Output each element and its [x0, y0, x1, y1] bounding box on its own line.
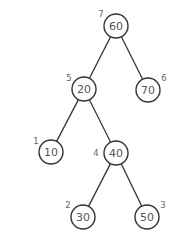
tree-node-70: 706: [136, 73, 167, 102]
node-order-label: 3: [160, 200, 165, 210]
edge-n60-n20: [89, 37, 110, 79]
node-order-label: 6: [161, 73, 166, 83]
node-value: 30: [76, 211, 90, 224]
edge-n60-n70: [121, 37, 142, 80]
node-value: 20: [77, 83, 91, 96]
tree-node-20: 205: [66, 73, 96, 101]
binary-tree-diagram: 607205706101404302503: [0, 0, 185, 235]
node-order-label: 1: [33, 136, 38, 146]
node-value: 40: [109, 147, 123, 160]
node-value: 60: [109, 20, 123, 33]
node-value: 70: [141, 84, 155, 97]
edge-n40-n30: [88, 164, 110, 207]
edge-n40-n50: [121, 164, 142, 206]
tree-node-40: 404: [93, 141, 128, 165]
tree-node-60: 607: [98, 9, 128, 38]
tree-node-10: 101: [33, 136, 63, 164]
node-order-label: 7: [98, 9, 103, 19]
tree-node-50: 503: [135, 200, 166, 229]
tree-edges: [57, 37, 143, 207]
node-order-label: 2: [65, 200, 70, 210]
node-value: 50: [140, 211, 154, 224]
tree-node-30: 302: [65, 200, 95, 229]
tree-nodes: 607205706101404302503: [33, 9, 166, 229]
edge-n20-n10: [57, 100, 79, 142]
node-order-label: 4: [93, 148, 98, 158]
node-value: 10: [44, 146, 58, 159]
node-order-label: 5: [66, 73, 71, 83]
edge-n20-n40: [89, 100, 110, 143]
